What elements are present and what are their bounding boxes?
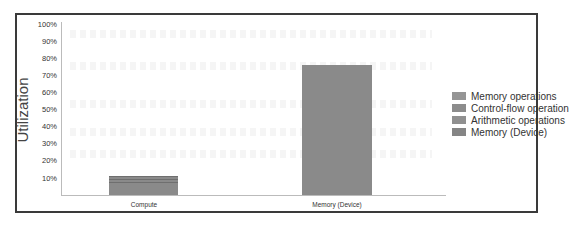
legend-swatch <box>452 92 466 100</box>
y-tick-40: 40% <box>29 122 57 131</box>
segment-divider <box>109 182 178 183</box>
bar-memory-device <box>302 65 372 195</box>
bleed-through-text <box>70 150 432 158</box>
bleed-through-text <box>70 128 432 136</box>
y-tick-100: 100% <box>29 20 57 29</box>
y-tick-30: 30% <box>29 139 57 148</box>
segment-divider <box>109 176 178 177</box>
x-tick-compute: Compute <box>94 201 194 208</box>
y-tick-90: 90% <box>29 37 57 46</box>
y-tick-60: 60% <box>29 88 57 97</box>
y-axis-label: Utilization <box>14 77 31 142</box>
legend-item-memory-device: Memory (Device) <box>452 126 569 138</box>
y-tick-20: 20% <box>29 156 57 165</box>
y-tick-70: 70% <box>29 71 57 80</box>
legend-swatch <box>452 104 466 112</box>
y-tick-80: 80% <box>29 54 57 63</box>
segment-divider <box>109 179 178 180</box>
x-tick-memory-device: Memory (Device) <box>287 201 387 208</box>
legend-swatch <box>452 128 466 136</box>
bleed-through-text <box>70 62 432 70</box>
legend-swatch <box>452 116 466 124</box>
x-axis-line <box>61 195 446 196</box>
legend-item-memory-operations: Memory operations <box>452 90 569 102</box>
y-tick-50: 50% <box>29 105 57 114</box>
bleed-through-text <box>70 100 432 108</box>
y-tick-10: 10% <box>29 174 57 183</box>
bar-compute <box>109 176 178 195</box>
legend: Memory operations Control-flow operation… <box>452 90 569 138</box>
legend-item-arithmetic: Arithmetic operations <box>452 114 569 126</box>
y-axis-line <box>61 22 62 195</box>
legend-item-control-flow: Control-flow operation <box>452 102 569 114</box>
bleed-through-text <box>70 30 432 38</box>
